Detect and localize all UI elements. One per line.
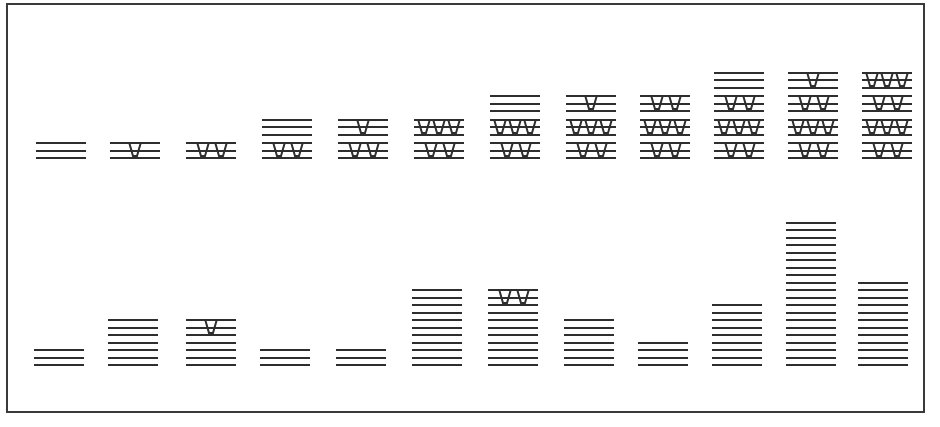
stack-line <box>786 342 836 344</box>
stack-line <box>488 327 538 329</box>
stack-line <box>858 304 908 306</box>
stack-line <box>186 364 236 366</box>
stack-line <box>786 282 836 284</box>
stack-line <box>186 342 236 344</box>
stack-line <box>786 357 836 359</box>
stack-line <box>564 364 614 366</box>
stack-line <box>564 357 614 359</box>
v-notch-icon <box>516 289 530 304</box>
stack-line <box>858 349 908 351</box>
stack-line <box>412 349 462 351</box>
stack-line <box>412 304 462 306</box>
stack-line <box>34 357 84 359</box>
stack-line <box>336 357 386 359</box>
stack-line <box>488 304 538 306</box>
stack-line <box>786 252 836 254</box>
stack-line <box>186 334 236 336</box>
stack-line <box>786 364 836 366</box>
stack-line <box>786 349 836 351</box>
stack-line <box>412 289 462 291</box>
stack-line <box>412 364 462 366</box>
stack-line <box>638 342 688 344</box>
stack-line <box>712 349 762 351</box>
stack-line <box>488 364 538 366</box>
stack-line <box>786 229 836 231</box>
stack-line <box>786 259 836 261</box>
stack-line <box>786 334 836 336</box>
stack-line <box>712 304 762 306</box>
stack-line <box>564 319 614 321</box>
stack-line <box>712 364 762 366</box>
stack-line <box>786 297 836 299</box>
stack-line <box>712 312 762 314</box>
stack-line <box>412 334 462 336</box>
stack-line <box>260 357 310 359</box>
stack-line <box>786 222 836 224</box>
stack-line <box>858 342 908 344</box>
stack-line <box>786 304 836 306</box>
stack-line <box>712 319 762 321</box>
stack-line <box>412 297 462 299</box>
v-notch-icon <box>498 289 512 304</box>
stack-line <box>858 327 908 329</box>
stack-line <box>488 289 538 291</box>
stack-line <box>858 319 908 321</box>
stack-line <box>858 289 908 291</box>
stack-line <box>412 357 462 359</box>
stack-line <box>108 319 158 321</box>
stack-line <box>638 357 688 359</box>
stack-line <box>260 349 310 351</box>
stack-line <box>786 312 836 314</box>
stack-line <box>858 364 908 366</box>
stack-line <box>712 342 762 344</box>
stack-line <box>108 334 158 336</box>
stack-line <box>336 364 386 366</box>
stack-line <box>858 357 908 359</box>
stack-line <box>786 319 836 321</box>
stack-line <box>186 349 236 351</box>
v-notch-icon <box>204 319 218 334</box>
stack-line <box>336 349 386 351</box>
stack-line <box>786 267 836 269</box>
stack-line <box>412 327 462 329</box>
stack-line <box>488 357 538 359</box>
stack-line <box>858 282 908 284</box>
stack-line <box>108 327 158 329</box>
stack-line <box>564 327 614 329</box>
bottom-row-stacks <box>0 0 940 427</box>
stack-line <box>260 364 310 366</box>
stack-line <box>786 244 836 246</box>
stack-line <box>858 334 908 336</box>
stack-line <box>488 349 538 351</box>
stack-line <box>786 237 836 239</box>
stack-line <box>108 357 158 359</box>
stack-line <box>186 357 236 359</box>
stack-line <box>786 289 836 291</box>
stack-line <box>858 297 908 299</box>
stack-line <box>638 349 688 351</box>
stack-line <box>786 274 836 276</box>
stack-line <box>412 312 462 314</box>
stack-line <box>488 342 538 344</box>
stack-line <box>108 342 158 344</box>
stack-line <box>108 364 158 366</box>
stack-line <box>638 364 688 366</box>
stack-line <box>108 349 158 351</box>
stack-line <box>412 319 462 321</box>
stack-line <box>712 327 762 329</box>
stack-line <box>564 334 614 336</box>
stack-line <box>488 312 538 314</box>
stack-line <box>712 357 762 359</box>
stack-line <box>488 297 538 299</box>
stack-line <box>34 364 84 366</box>
stack-line <box>564 349 614 351</box>
stack-line <box>34 349 84 351</box>
stack-line <box>488 319 538 321</box>
stack-line <box>564 342 614 344</box>
stack-line <box>858 312 908 314</box>
stack-line <box>412 342 462 344</box>
stack-line <box>488 334 538 336</box>
stack-line <box>712 334 762 336</box>
stack-line <box>786 327 836 329</box>
